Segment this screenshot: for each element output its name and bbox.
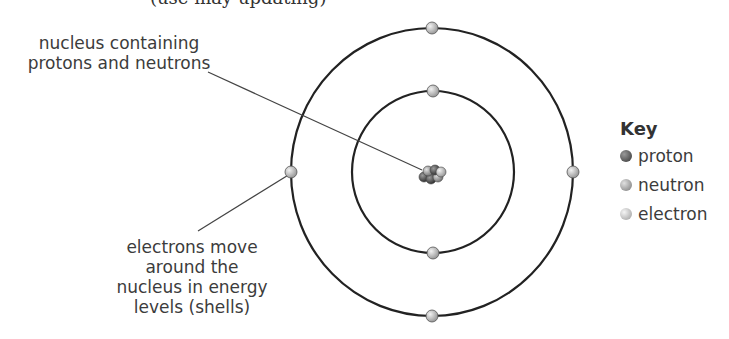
- electron-icon: [620, 208, 632, 220]
- legend-item-electron: electron: [620, 199, 707, 228]
- legend-item-proton: proton: [620, 141, 707, 170]
- neutron-icon: [620, 179, 632, 191]
- electron-pointer: [198, 174, 290, 231]
- nucleus-pointer: [208, 72, 422, 170]
- electron-label: electrons move around the nucleus in ene…: [92, 237, 292, 317]
- legend: Key proton neutron electron: [620, 118, 707, 228]
- nucleus-label: nucleus containing protons and neutrons: [14, 33, 224, 73]
- nucleus: [419, 165, 446, 184]
- legend-item-neutron: neutron: [620, 170, 707, 199]
- proton-icon: [620, 150, 632, 162]
- legend-title: Key: [620, 118, 707, 139]
